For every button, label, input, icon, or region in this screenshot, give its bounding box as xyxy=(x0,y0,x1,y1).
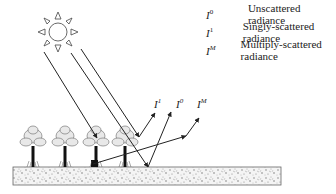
tree-icon xyxy=(52,126,78,167)
soil-surface xyxy=(13,167,281,185)
ray-label-I1: I1 xyxy=(154,97,161,110)
trees xyxy=(20,126,138,167)
ray-label-I0: I0 xyxy=(176,97,183,110)
tree-icon xyxy=(20,126,46,167)
legend-symbol: I1 xyxy=(206,26,243,39)
incoming-ray-multiple xyxy=(44,52,97,138)
legend-symbol: I0 xyxy=(206,8,248,21)
ray-label-IM: IM xyxy=(197,97,207,110)
outgoing-ray-I0 xyxy=(148,112,171,167)
outgoing-ray-I1 xyxy=(139,113,155,137)
legend-label: Multiply-scattered radiance xyxy=(241,38,336,62)
incoming-ray-single xyxy=(81,49,139,137)
legend: I0 Unscattered radiance I1 Singly-scatte… xyxy=(0,0,336,60)
incoming-ray-unscattered xyxy=(71,53,148,167)
legend-symbol: IM xyxy=(206,44,241,57)
legend-item-single: I1 Singly-scattered radiance xyxy=(206,25,336,39)
legend-item-multiple: IM Multiply-scattered radiance xyxy=(206,43,336,57)
legend-item-unscattered: I0 Unscattered radiance xyxy=(206,7,336,21)
outgoing-ray-IM xyxy=(186,118,199,136)
